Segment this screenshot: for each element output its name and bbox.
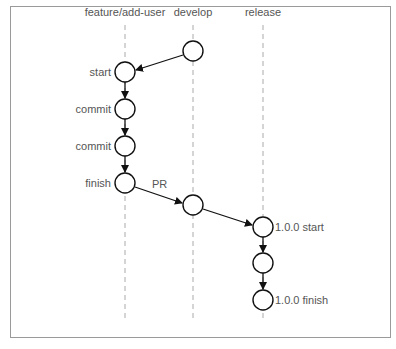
commit-node-feature-start (115, 62, 135, 82)
commit-node-feature-finish (115, 173, 135, 193)
commit-node-release-start (253, 217, 273, 237)
commit-node-feature-commit-1 (115, 99, 135, 119)
commit-node-release-mid (253, 253, 273, 273)
commit-node-feature-commit-2 (115, 136, 135, 156)
nodes (115, 41, 273, 310)
edge-label-pr: PR (152, 178, 167, 190)
lane-lines (125, 25, 263, 320)
commit-node-release-finish (253, 290, 273, 310)
node-label-commit-1: commit (76, 103, 111, 115)
lane-label-release: release (245, 6, 281, 18)
node-label-start: start (90, 66, 111, 78)
edge-develop-start (136, 55, 183, 70)
edges (125, 55, 263, 289)
node-label-commit-2: commit (76, 140, 111, 152)
node-label-release-finish: 1.0.0 finish (275, 294, 328, 306)
node-label-finish: finish (85, 177, 111, 189)
commit-node-develop-2 (183, 195, 203, 215)
commit-node-develop-1 (183, 41, 203, 61)
node-label-release-start: 1.0.0 start (275, 221, 324, 233)
edge-develop-release (203, 209, 252, 225)
gitflow-diagram: feature/add-user develop release start c… (0, 0, 396, 349)
lane-label-develop: develop (174, 6, 213, 18)
lane-label-feature: feature/add-user (85, 6, 166, 18)
